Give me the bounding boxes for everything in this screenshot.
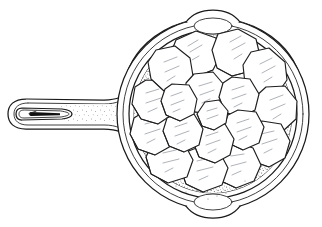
skillet-drawing [0,0,322,227]
spout-bottom-tongue [194,194,232,210]
skillet-illustration: Cast iron skillet with sliced potatoes [0,0,322,227]
potato-slice [161,84,197,121]
